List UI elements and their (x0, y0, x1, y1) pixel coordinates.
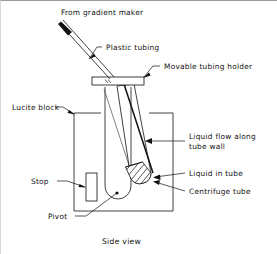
diagram-canvas: From gradient maker Plastic tubing Movab… (1, 1, 277, 254)
label-lucite-block: Lucite block (12, 103, 60, 112)
label-liquid-in-tube: Liquid in tube (189, 169, 243, 178)
plastic-tubing-leader (89, 47, 102, 59)
liquid-flow-leader (145, 138, 185, 144)
label-movable-tubing-holder: Movable tubing holder (164, 62, 253, 71)
label-pivot: Pivot (48, 212, 67, 221)
liquid-in-tube-hatch (115, 154, 157, 194)
label-liquid-flow-line1: Liquid flow along (189, 132, 256, 141)
label-plastic-tubing: Plastic tubing (106, 43, 160, 52)
stop-leader (57, 181, 86, 188)
label-from-gradient-maker: From gradient maker (61, 8, 144, 17)
stop-shape (86, 173, 97, 201)
liquid-flow-stream (123, 81, 153, 173)
movable-tubing-holder-leader (143, 66, 160, 78)
label-liquid-flow-line2: tube wall (189, 142, 225, 151)
figure-caption: Side view (102, 237, 141, 246)
label-stop: Stop (31, 177, 49, 186)
label-centrifuge-tube: Centrifuge tube (189, 187, 251, 196)
figure-side-view: From gradient maker Plastic tubing Movab… (0, 0, 277, 254)
liquid-in-tube-leader (153, 173, 185, 180)
centrifuge-tube-leader (153, 180, 185, 191)
movable-tubing-holder-shape (92, 77, 144, 85)
